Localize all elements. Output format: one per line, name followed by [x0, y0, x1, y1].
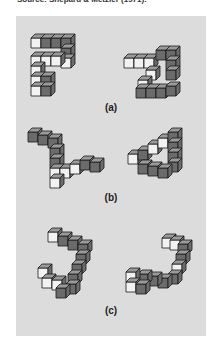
figure-c-left — [38, 228, 92, 298]
figure-panel: (a) (b) (c) — [16, 16, 206, 336]
mental-rotation-figures — [16, 16, 206, 336]
source-caption: Source: Shepard & Metzler (1971). — [17, 0, 146, 4]
panel-label-c: (c) — [91, 305, 131, 316]
panel-label-a: (a) — [91, 102, 131, 113]
figure-a-left — [31, 34, 75, 96]
figure-a-right — [124, 46, 180, 98]
figure-b-left — [28, 128, 104, 188]
panel-label-b: (b) — [91, 192, 131, 203]
figure-c-right — [126, 234, 192, 294]
figure-b-right — [128, 128, 182, 178]
